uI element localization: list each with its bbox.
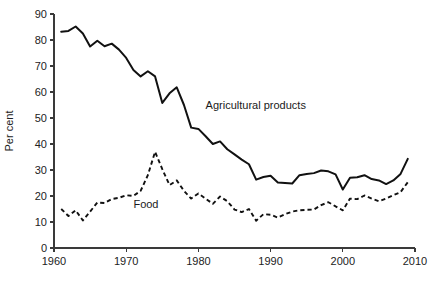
- y-axis-tick-label: 80: [35, 34, 47, 46]
- y-axis-tick-label: 90: [35, 8, 47, 20]
- y-axis-tick-label: 20: [35, 190, 47, 202]
- x-axis-tick-label: 1980: [186, 255, 210, 267]
- y-axis-tick-label: 60: [35, 86, 47, 98]
- y-axis-tick-label: 0: [41, 242, 47, 254]
- y-axis-tick-label: 30: [35, 164, 47, 176]
- line-chart: 0102030405060708090 19601970198019902000…: [0, 0, 440, 284]
- x-axis-tick-label: 1990: [258, 255, 282, 267]
- annotation-food: Food: [133, 198, 158, 210]
- y-axis-title: Per cent: [3, 111, 15, 152]
- y-axis-title-group: Per cent: [3, 111, 15, 152]
- x-axis-tick-label: 2010: [403, 255, 427, 267]
- annotation-agricultural-products: Agricultural products: [206, 99, 307, 111]
- y-axis-tick-label: 10: [35, 216, 47, 228]
- y-axis-tick-label: 70: [35, 60, 47, 72]
- chart-container: 0102030405060708090 19601970198019902000…: [0, 0, 440, 284]
- x-axis-tick-label: 1960: [42, 255, 66, 267]
- x-axis-tick-label: 2000: [331, 255, 355, 267]
- y-axis-tick-label: 50: [35, 112, 47, 124]
- y-axis-tick-label: 40: [35, 138, 47, 150]
- x-axis-tick-label: 1970: [114, 255, 138, 267]
